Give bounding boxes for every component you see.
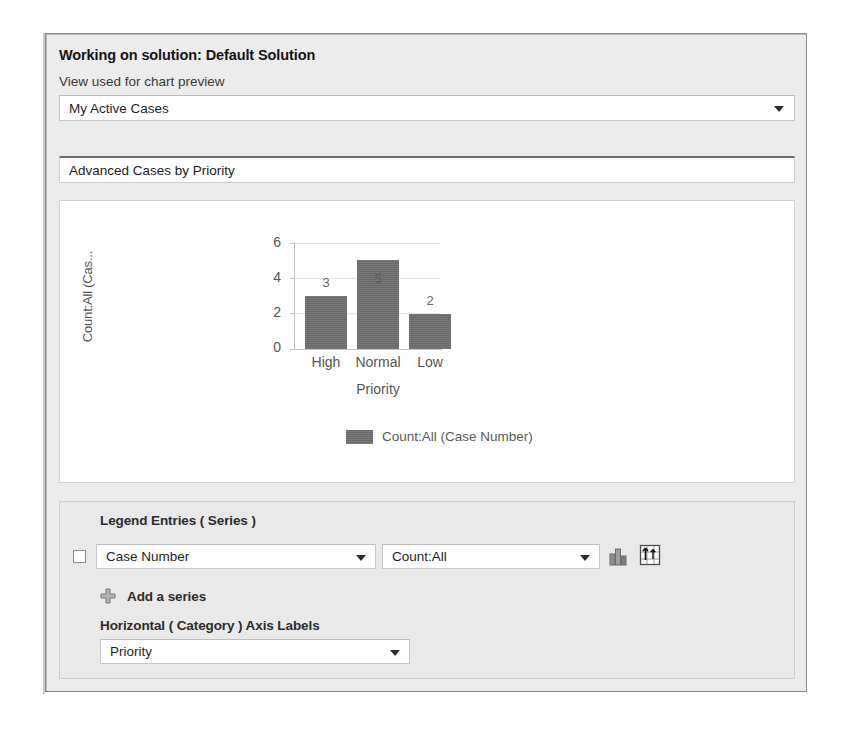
plus-icon — [100, 588, 116, 604]
view-select[interactable]: My Active Cases — [59, 95, 795, 121]
chart-tick — [290, 278, 294, 279]
chart-bar-high — [305, 296, 347, 349]
chart-preview-canvas: Count:All (Cas... 6 4 2 0 3 5 2 — [59, 200, 795, 483]
axis-settings-icon[interactable] — [638, 543, 660, 565]
series-row-checkbox[interactable] — [73, 550, 86, 563]
legend-color-swatch — [346, 430, 373, 444]
chart-name-input[interactable]: Advanced Cases by Priority — [59, 156, 795, 183]
chart-x-label: Low — [390, 354, 470, 370]
chart-x-axis-title: Priority — [298, 381, 458, 397]
chevron-down-icon[interactable] — [774, 106, 784, 112]
chart-bar-label: 5 — [358, 271, 398, 286]
legend-label: Count:All (Case Number) — [382, 429, 533, 444]
view-preview-label: View used for chart preview — [59, 74, 225, 89]
view-select-value: My Active Cases — [60, 101, 169, 116]
category-axis-value: Priority — [101, 644, 152, 659]
chart-y-axis — [294, 242, 295, 349]
chart-designer-panel: Working on solution: Default Solution Vi… — [45, 33, 807, 692]
chevron-down-icon[interactable] — [580, 555, 590, 561]
chart-name-value: Advanced Cases by Priority — [60, 163, 235, 178]
category-axis-select[interactable]: Priority — [100, 639, 410, 664]
add-series-label: Add a series — [127, 589, 206, 604]
bar-chart: Count:All (Cas... 6 4 2 0 3 5 2 — [60, 201, 796, 484]
series-settings-group: Legend Entries ( Series ) Case Number Co… — [59, 501, 795, 679]
chevron-down-icon[interactable] — [390, 650, 400, 656]
chart-bar-label: 3 — [306, 275, 346, 290]
chart-gridline — [295, 243, 440, 244]
solution-title: Working on solution: Default Solution — [59, 47, 315, 63]
series-field-select[interactable]: Case Number — [96, 544, 376, 569]
chart-bar-label: 2 — [410, 293, 450, 308]
chart-y-tick: 2 — [263, 304, 281, 320]
horizontal-axis-labels-label: Horizontal ( Category ) Axis Labels — [100, 618, 320, 633]
series-field-value: Case Number — [97, 549, 189, 564]
chart-tick — [290, 349, 294, 350]
series-aggregate-select[interactable]: Count:All — [382, 544, 600, 569]
chart-y-tick: 0 — [263, 339, 281, 355]
chart-y-axis-title: Count:All (Cas... — [80, 232, 95, 362]
bar-chart-icon[interactable] — [607, 545, 629, 567]
series-aggregate-value: Count:All — [383, 549, 447, 564]
add-series-button[interactable]: Add a series — [100, 588, 206, 604]
chart-x-axis — [294, 349, 442, 350]
chart-y-tick: 4 — [263, 269, 281, 285]
legend-entries-label: Legend Entries ( Series ) — [100, 513, 256, 528]
chart-bar-low — [409, 314, 451, 349]
chart-tick — [290, 313, 294, 314]
chart-tick — [290, 243, 294, 244]
chevron-down-icon[interactable] — [356, 555, 366, 561]
chart-legend: Count:All (Case Number) — [346, 429, 533, 444]
chart-y-tick: 6 — [263, 234, 281, 250]
